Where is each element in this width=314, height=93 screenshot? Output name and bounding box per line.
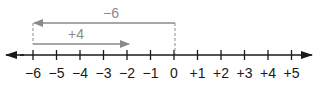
tick-labels: −6−5−4−3−2−10+1+2+3+4+5 [25,65,300,81]
arrow-plus-4: +4 [33,26,129,44]
tick-label: −2 [119,65,135,81]
arrow-plus-4-label: +4 [68,26,84,42]
number-line-diagram: −6−5−4−3−2−10+1+2+3+4+5 −6 +4 [0,0,314,93]
tick-label: −1 [143,65,159,81]
arrow-minus-6: −6 [34,5,175,23]
tick-label: +3 [237,65,253,81]
arrow-minus-6-label: −6 [103,5,119,21]
tick-label: +2 [213,65,229,81]
tick-label: −4 [72,65,88,81]
tick-label: −3 [96,65,112,81]
tick-label: +4 [260,65,276,81]
tick-label: 0 [170,65,178,81]
dashed-guides [33,23,175,54]
tick-label: −6 [25,65,41,81]
tick-label: +1 [190,65,206,81]
tick-label: −5 [49,65,65,81]
tick-label: +5 [284,65,300,81]
